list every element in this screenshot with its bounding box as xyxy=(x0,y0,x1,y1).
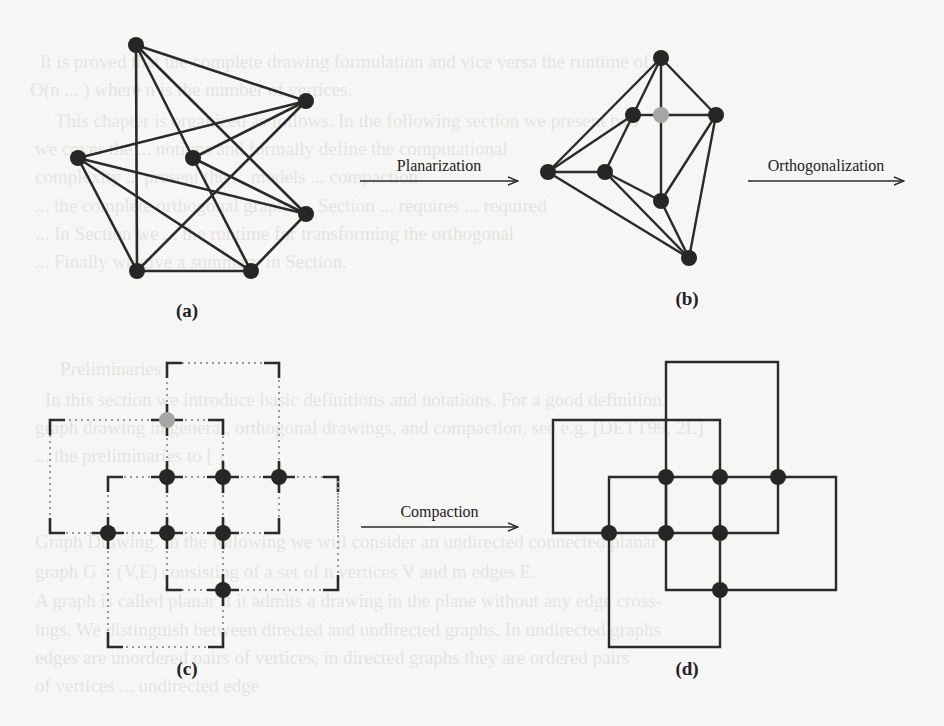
graph-vertex xyxy=(712,525,728,541)
graph-vertex xyxy=(185,150,201,166)
graph-vertex xyxy=(625,107,641,123)
bend-stub xyxy=(167,575,182,590)
arrow-label: Planarization xyxy=(397,157,481,174)
bend-stub xyxy=(108,632,123,647)
graph-d-compacted-drawing xyxy=(553,362,836,647)
arrow-label: Compaction xyxy=(400,503,478,521)
graph-vertex xyxy=(712,469,728,485)
graph-vertex xyxy=(601,525,617,541)
graph-vertex xyxy=(681,250,697,266)
graph-edge xyxy=(251,214,306,271)
graph-edge xyxy=(78,101,306,158)
graph-vertex xyxy=(159,525,175,541)
crossing-dummy-vertex xyxy=(653,107,669,123)
ortho-edge-dotted xyxy=(279,477,338,533)
graph-vertex xyxy=(712,582,728,598)
graph-vertex xyxy=(243,263,259,279)
graph-vertex xyxy=(159,469,175,485)
graph-vertex xyxy=(540,164,556,180)
ortho-edge-dotted xyxy=(108,477,167,533)
ortho-edge-dotted xyxy=(167,533,223,590)
subfigure-label: (c) xyxy=(176,658,197,680)
ortho-edge-dotted xyxy=(167,420,223,477)
crossing-dummy-vertex xyxy=(159,412,175,428)
ortho-edge xyxy=(666,362,778,533)
graph-vertex xyxy=(298,93,314,109)
graph-edge xyxy=(136,45,137,271)
bend-stub xyxy=(264,518,279,533)
bend-stub xyxy=(108,477,123,492)
graph-vertex xyxy=(215,469,231,485)
bend-stub xyxy=(208,420,223,435)
bend-stub xyxy=(50,420,65,435)
graph-vertex xyxy=(597,164,613,180)
graph-vertex xyxy=(129,263,145,279)
graph-edge xyxy=(633,58,661,115)
graph-edge xyxy=(193,158,306,214)
graph-vertex xyxy=(658,525,674,541)
graph-edge xyxy=(661,58,716,115)
ortho-edge-dotted xyxy=(223,477,279,533)
graph-vertex xyxy=(658,469,674,485)
graph-vertex xyxy=(271,469,287,485)
subfigure-label: (d) xyxy=(675,658,698,680)
subfigure-label: (b) xyxy=(675,288,698,310)
graph-vertex xyxy=(708,107,724,123)
graph-a-nonplanar xyxy=(70,37,314,279)
bend-stub xyxy=(323,575,338,590)
graph-vertex xyxy=(70,150,86,166)
graph-vertex xyxy=(653,50,669,66)
graph-edge xyxy=(78,158,306,214)
ortho-edge xyxy=(609,477,778,533)
graph-vertex xyxy=(653,193,669,209)
graph-vertex xyxy=(215,582,231,598)
graph-edge xyxy=(136,45,306,101)
graph-edge xyxy=(193,158,251,271)
graph-vertex xyxy=(298,206,314,222)
graph-vertex xyxy=(128,37,144,53)
graph-edge xyxy=(78,158,137,271)
ortho-edge-dotted xyxy=(223,477,338,590)
graph-edge xyxy=(136,45,306,214)
graph-vertex xyxy=(100,525,116,541)
arrow-label: Orthogonalization xyxy=(768,157,884,175)
graph-vertex xyxy=(215,525,231,541)
bend-stub xyxy=(323,477,338,492)
bend-stub xyxy=(167,363,182,378)
subfigure-label: (a) xyxy=(176,300,198,322)
bend-stub xyxy=(50,518,65,533)
graph-vertex xyxy=(770,469,786,485)
pipeline-figure: PlanarizationOrthogonalizationCompaction… xyxy=(0,0,944,726)
graph-b-planarized xyxy=(540,50,724,266)
step-arrows: PlanarizationOrthogonalizationCompaction xyxy=(360,157,904,527)
graph-edge xyxy=(605,172,661,201)
graph-c-orthogonal-representation xyxy=(50,363,338,647)
ortho-edge-dotted xyxy=(108,533,223,647)
bend-stub xyxy=(208,632,223,647)
graph-edge xyxy=(137,101,306,271)
subfigure-labels: (a)(b)(c)(d) xyxy=(176,288,699,680)
graph-edge xyxy=(193,101,306,158)
bend-stub xyxy=(264,363,279,378)
